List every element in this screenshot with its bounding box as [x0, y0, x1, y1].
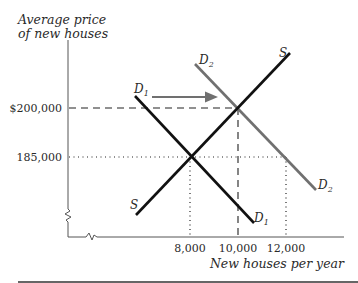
x-tick-12000: 12,000 — [267, 242, 306, 255]
y-tick-185000: 185,000 — [17, 151, 63, 164]
label-s-bottom: S — [130, 198, 138, 212]
demand-curve-d2 — [195, 64, 316, 190]
x-tick-8000: 8,000 — [174, 242, 206, 255]
x-axis-label: New houses per year — [209, 256, 345, 271]
supply-demand-chart: Average price of new houses $200,000 185… — [0, 0, 358, 283]
y-axis-label-line2: of new houses — [18, 26, 108, 41]
demand-curve-d1 — [135, 96, 254, 223]
y-tick-200000: $200,000 — [10, 102, 63, 115]
x-tick-10000: 10,000 — [219, 242, 258, 255]
y-axis — [65, 40, 71, 237]
label-d1-bottom: D1 — [253, 211, 269, 227]
supply-curve-s — [136, 53, 290, 215]
x-axis — [68, 233, 344, 240]
label-d2-top: D2 — [198, 53, 214, 69]
demand-shift-arrow — [152, 92, 218, 103]
y-axis-label-line1: Average price — [17, 12, 106, 27]
label-d2-bottom: D2 — [317, 178, 333, 194]
label-s-top: S — [279, 46, 287, 60]
label-d1-top: D1 — [133, 82, 149, 98]
